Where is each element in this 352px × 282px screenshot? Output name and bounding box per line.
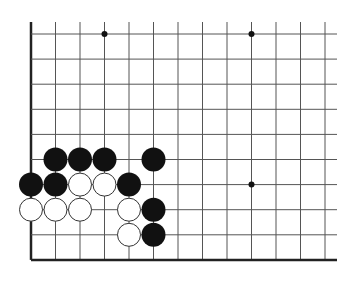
white-stone[interactable] (69, 198, 92, 221)
white-stone[interactable] (93, 173, 116, 196)
black-stone[interactable] (117, 173, 141, 197)
black-stone[interactable] (44, 148, 68, 172)
white-stone[interactable] (118, 223, 141, 246)
black-stone[interactable] (68, 148, 92, 172)
black-stone[interactable] (142, 223, 166, 247)
white-stone[interactable] (69, 173, 92, 196)
black-stone[interactable] (93, 148, 117, 172)
star-point-icon (102, 31, 108, 37)
black-stone[interactable] (142, 148, 166, 172)
star-point-icon (249, 182, 255, 188)
go-board[interactable] (0, 0, 352, 282)
white-stone[interactable] (118, 198, 141, 221)
white-stone[interactable] (20, 198, 43, 221)
black-stone[interactable] (142, 198, 166, 222)
black-stone[interactable] (19, 173, 43, 197)
white-stone[interactable] (44, 198, 67, 221)
black-stone[interactable] (44, 173, 68, 197)
star-point-icon (249, 31, 255, 37)
